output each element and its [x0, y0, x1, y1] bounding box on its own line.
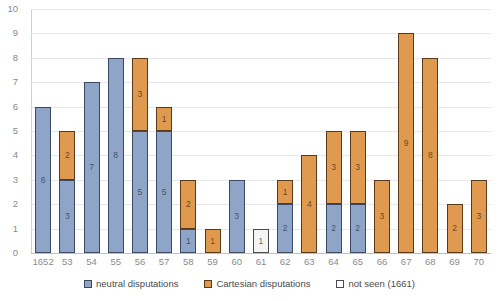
y-axis-tick-label: 7: [0, 77, 18, 86]
bar-segment-neutral[interactable]: 2: [277, 204, 293, 253]
bar-column[interactable]: 21: [176, 9, 200, 253]
x-axis-tick-label: 70: [467, 255, 491, 271]
bar-column[interactable]: 23: [55, 9, 79, 253]
bar-value-label: 1: [259, 237, 264, 246]
legend-label: neutral disputations: [96, 278, 178, 289]
bar-column[interactable]: 1: [200, 9, 224, 253]
legend-label: not seen (1661): [348, 278, 415, 289]
bar-column[interactable]: 7: [79, 9, 103, 253]
bar-stack[interactable]: 23: [59, 131, 75, 253]
bar-segment-cartesian[interactable]: 3: [374, 180, 390, 253]
bar-stack[interactable]: 32: [326, 131, 342, 253]
x-axis-tick-label: 59: [200, 255, 224, 271]
bar-stack[interactable]: 1: [253, 229, 269, 253]
bar-stack[interactable]: 35: [132, 58, 148, 253]
bar-segment-neutral[interactable]: 5: [132, 131, 148, 253]
bar-segment-cartesian[interactable]: 3: [132, 58, 148, 131]
bar-value-label: 1: [186, 237, 191, 246]
bar-stack[interactable]: 4: [301, 155, 317, 253]
bar-segment-neutral[interactable]: 2: [350, 204, 366, 253]
bar-stack[interactable]: 1: [205, 229, 221, 253]
legend-item-neutral[interactable]: neutral disputations: [84, 278, 178, 289]
bar-column[interactable]: 3: [467, 9, 491, 253]
bar-value-label: 7: [89, 163, 94, 172]
y-axis-tick-label: 4: [0, 150, 18, 159]
bar-column[interactable]: 1: [249, 9, 273, 253]
bar-segment-cartesian[interactable]: 3: [471, 180, 487, 253]
legend-item-cartesian[interactable]: Cartesian disputations: [204, 278, 310, 289]
bar-stack[interactable]: 2: [447, 204, 463, 253]
bar-segment-cartesian[interactable]: 8: [422, 58, 438, 253]
bar-column[interactable]: 32: [346, 9, 370, 253]
bar-segment-neutral[interactable]: 7: [84, 82, 100, 253]
bar-segment-neutral[interactable]: 2: [326, 204, 342, 253]
x-axis-tick-label: 54: [79, 255, 103, 271]
bar-value-label: 3: [138, 90, 143, 99]
bar-value-label: 3: [380, 212, 385, 221]
bar-segment-cartesian[interactable]: 1: [156, 107, 172, 131]
bar-segment-cartesian[interactable]: 4: [301, 155, 317, 253]
bar-segment-neutral[interactable]: 8: [108, 58, 124, 253]
bar-column[interactable]: 32: [321, 9, 345, 253]
bar-stack[interactable]: 3: [229, 180, 245, 253]
bar-value-label: 2: [452, 224, 457, 233]
bar-column[interactable]: 2: [442, 9, 466, 253]
bar-column[interactable]: 8: [104, 9, 128, 253]
legend-swatch-icon: [204, 280, 212, 288]
bar-stack[interactable]: 6: [35, 107, 51, 253]
bar-segment-neutral[interactable]: 3: [229, 180, 245, 253]
bar-stack[interactable]: 32: [350, 131, 366, 253]
bar-stack[interactable]: 21: [180, 180, 196, 253]
bar-value-label: 1: [210, 237, 215, 246]
bar-value-label: 9: [404, 139, 409, 148]
bar-segment-cartesian[interactable]: 1: [277, 180, 293, 204]
bar-column[interactable]: 12: [273, 9, 297, 253]
x-axis-tick-label: 62: [273, 255, 297, 271]
bar-column[interactable]: 3: [370, 9, 394, 253]
bar-segment-neutral[interactable]: 1: [180, 229, 196, 253]
bar-value-label: 5: [138, 188, 143, 197]
bar-segment-cartesian[interactable]: 3: [326, 131, 342, 204]
bar-stack[interactable]: 8: [422, 58, 438, 253]
bar-stack[interactable]: 15: [156, 107, 172, 253]
bar-segment-cartesian[interactable]: 1: [205, 229, 221, 253]
bar-segment-notseen[interactable]: 1: [253, 229, 269, 253]
bar-column[interactable]: 6: [31, 9, 55, 253]
bar-column[interactable]: 4: [297, 9, 321, 253]
bar-segment-cartesian[interactable]: 2: [447, 204, 463, 253]
bar-segment-neutral[interactable]: 3: [59, 180, 75, 253]
bar-stack[interactable]: 3: [471, 180, 487, 253]
legend-item-notseen[interactable]: not seen (1661): [336, 278, 415, 289]
chart-legend: neutral disputationsCartesian disputatio…: [0, 278, 499, 289]
x-axis-tick-label: 64: [321, 255, 345, 271]
bar-column[interactable]: 15: [152, 9, 176, 253]
bar-column[interactable]: 35: [128, 9, 152, 253]
bar-series-group: 62378351521131124323239823: [31, 9, 491, 253]
bar-stack[interactable]: 3: [374, 180, 390, 253]
bar-segment-cartesian[interactable]: 9: [398, 33, 414, 253]
bar-segment-cartesian[interactable]: 2: [180, 180, 196, 229]
bar-value-label: 5: [162, 188, 167, 197]
bar-segment-cartesian[interactable]: 3: [350, 131, 366, 204]
legend-swatch-icon: [336, 280, 344, 288]
bar-segment-neutral[interactable]: 6: [35, 107, 51, 253]
bar-stack[interactable]: 9: [398, 33, 414, 253]
bar-stack[interactable]: 8: [108, 58, 124, 253]
bar-value-label: 4: [307, 200, 312, 209]
bar-column[interactable]: 9: [394, 9, 418, 253]
bar-stack[interactable]: 12: [277, 180, 293, 253]
bar-value-label: 3: [65, 212, 70, 221]
bar-value-label: 3: [355, 163, 360, 172]
bar-value-label: 8: [428, 151, 433, 160]
bar-value-label: 1: [283, 188, 288, 197]
bar-column[interactable]: 3: [225, 9, 249, 253]
bar-value-label: 1: [162, 115, 167, 124]
y-axis-tick-label: 0: [0, 248, 18, 257]
bar-stack[interactable]: 7: [84, 82, 100, 253]
bar-column[interactable]: 8: [418, 9, 442, 253]
x-axis-tick-label: 67: [394, 255, 418, 271]
bar-segment-neutral[interactable]: 5: [156, 131, 172, 253]
bar-value-label: 2: [355, 224, 360, 233]
x-axis-tick-label: 1652: [31, 255, 55, 271]
bar-segment-cartesian[interactable]: 2: [59, 131, 75, 180]
